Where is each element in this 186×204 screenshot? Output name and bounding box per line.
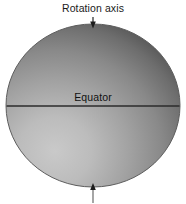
sphere-rotation-axis-diagram: Rotation axis Equator	[0, 0, 186, 204]
diagram-canvas	[0, 0, 186, 204]
